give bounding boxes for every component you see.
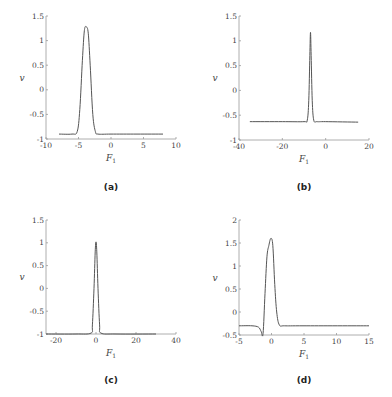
axes [239,220,369,335]
x-tick-label: 0 [323,142,328,151]
x-tick-label: 40 [171,336,181,345]
data-line [239,238,369,336]
y-tick-label: 0.5 [32,61,44,70]
x-tick-label: 10 [332,337,342,346]
x-axis-label: F1 [105,153,116,164]
chart-panel-d: -0.500.511.52-5051015vF1(d) [212,216,374,386]
y-tick-label: 0 [232,86,237,95]
chart-panel-c: -1-0.500.511.5-2002040vF1(c) [19,216,181,386]
x-axis-label: F1 [298,349,309,360]
y-axis-label: v [19,272,24,282]
y-tick-label: 0 [39,284,44,293]
data-line [250,32,358,122]
y-tick-label: 0 [232,308,237,317]
figure: -1-0.500.511.5-10-50510vF1(a)-1-0.500.51… [0,0,392,397]
x-tick-label: -5 [75,141,83,150]
y-tick-label: 1.5 [32,12,44,21]
panel-caption: (c) [104,375,118,385]
x-tick-label: 0 [269,337,274,346]
y-tick-label: 1 [232,36,237,45]
panel-caption: (a) [104,182,118,192]
x-tick-label: 0 [94,336,99,345]
x-axis-label: F1 [298,154,309,165]
chart-panel-b: -1-0.500.511.5-40-20020vF1(b) [212,12,374,193]
y-tick-label: -0.5 [30,110,45,119]
y-tick-label: 1 [232,262,237,271]
y-tick-label: 1.5 [225,12,237,21]
x-axis-label: F1 [105,348,116,359]
y-tick-label: 2 [232,216,237,225]
chart-panel-a: -1-0.500.511.5-10-50510vF1(a) [19,12,181,193]
data-line [46,242,156,334]
x-tick-label: 5 [141,141,146,150]
y-tick-label: -0.5 [223,111,238,120]
y-tick-label: -0.5 [30,307,45,316]
x-tick-label: 20 [131,336,141,345]
y-tick-label: 1 [39,36,44,45]
x-tick-label: -10 [40,141,52,150]
data-line [59,26,163,134]
x-tick-label: 10 [171,141,181,150]
x-tick-label: -40 [233,142,245,151]
y-tick-label: 0 [39,85,44,94]
y-tick-label: 1 [39,238,44,247]
y-tick-label: -1 [37,330,44,339]
y-tick-label: 1.5 [225,239,237,248]
y-axis-label: v [19,73,24,83]
axes [46,16,176,139]
y-tick-label: 0.5 [225,285,237,294]
y-tick-label: 0.5 [32,261,44,270]
axes [46,220,176,334]
y-axis-label: v [212,273,217,283]
x-tick-label: 5 [302,337,307,346]
panel-caption: (b) [297,182,312,192]
x-tick-label: 15 [364,337,374,346]
y-axis-label: v [212,73,217,83]
x-tick-label: 0 [109,141,114,150]
x-tick-label: -20 [276,142,288,151]
y-tick-label: 1.5 [32,216,44,225]
x-tick-label: -5 [235,337,243,346]
x-tick-label: -20 [50,336,62,345]
x-tick-label: 20 [364,142,374,151]
y-tick-label: 0.5 [225,61,237,70]
panel-caption: (d) [297,375,312,385]
